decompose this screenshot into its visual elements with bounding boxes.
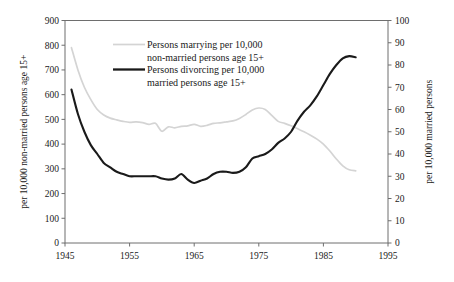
left-axis-tick-label: 500 — [45, 115, 60, 125]
x-axis-tick-label: 1995 — [379, 251, 398, 261]
left-axis-tick-label: 0 — [54, 238, 59, 248]
legend-label-line2: married persons age 15+ — [147, 77, 246, 88]
right-axis-tick-label: 90 — [395, 38, 405, 48]
right-axis-tick-label: 80 — [395, 60, 405, 70]
right-axis-tick-label: 70 — [395, 83, 405, 93]
right-axis-tick-label: 40 — [395, 149, 405, 159]
x-axis-tick-label: 1945 — [56, 251, 75, 261]
x-axis-tick-label: 1975 — [249, 251, 268, 261]
legend-label-line2: non-married persons age 15+ — [147, 52, 264, 63]
left-axis-tick-label: 800 — [45, 41, 60, 51]
right-axis-tick-label: 30 — [395, 172, 405, 182]
chart-container: 0100200300400500600700800900010203040506… — [0, 0, 454, 282]
left-axis-tick-label: 700 — [45, 65, 60, 75]
left-axis-tick-label: 100 — [45, 214, 60, 224]
right-axis-tick-label: 60 — [395, 105, 405, 115]
right-axis-tick-label: 0 — [395, 238, 400, 248]
x-axis-tick-label: 1985 — [314, 251, 333, 261]
line-chart: 0100200300400500600700800900010203040506… — [0, 0, 454, 282]
right-axis-tick-label: 10 — [395, 216, 405, 226]
right-axis-tick-label: 100 — [395, 16, 410, 26]
left-axis-title: per 10,000 non-married persons age 15+ — [19, 55, 29, 209]
x-axis-tick-label: 1965 — [185, 251, 204, 261]
left-axis-tick-label: 900 — [45, 16, 60, 26]
legend-label-line1: Persons marrying per 10,000 — [147, 39, 263, 50]
left-axis-tick-label: 600 — [45, 90, 60, 100]
right-axis-tick-label: 20 — [395, 194, 405, 204]
left-axis-tick-label: 400 — [45, 139, 60, 149]
left-axis-tick-label: 300 — [45, 164, 60, 174]
right-axis-tick-label: 50 — [395, 127, 405, 137]
left-axis-tick-label: 200 — [45, 189, 60, 199]
right-axis-title: per 10,000 married persons — [424, 79, 434, 183]
x-axis-tick-label: 1955 — [120, 251, 139, 261]
legend-label-line1: Persons divorcing per 10,000 — [147, 64, 264, 75]
